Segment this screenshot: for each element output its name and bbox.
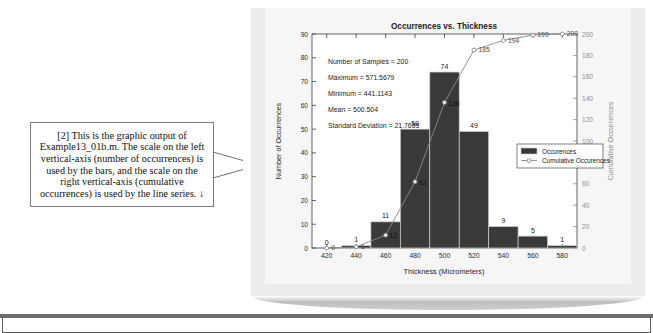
cumulative-value-label: 136: [449, 100, 460, 107]
cumulative-marker: [560, 32, 564, 36]
chart-legend[interactable]: OccurencesCumulative Occurences: [517, 144, 610, 168]
y-tick-label: 60: [301, 102, 309, 109]
cumulative-value-label: 0: [331, 244, 335, 251]
bar: [548, 246, 577, 248]
cumulative-value-label: 1: [361, 243, 365, 250]
cumulative-marker: [531, 33, 535, 37]
chart-title: Occurrences vs. Thickness: [391, 22, 497, 31]
x-tick-label: 480: [409, 252, 421, 259]
matlab-figure: Occurrences vs. Thickness 01020304050607…: [265, 8, 631, 284]
x-tick-label: 500: [439, 252, 451, 259]
y-tick-label: 30: [301, 173, 309, 180]
bar-value-label: 11: [382, 212, 389, 219]
y2-tick-label: 100: [582, 138, 593, 145]
cumulative-marker: [501, 39, 505, 43]
stat-line: Maximum = 571.5679: [328, 74, 395, 81]
y-tick-label: 70: [301, 78, 309, 85]
panel-drop-shadow: [251, 296, 645, 310]
stat-line: Mean = 500.504: [328, 106, 378, 113]
y2-tick-label: 140: [582, 95, 593, 102]
stat-line: Standard Deviation = 21.7655: [328, 122, 420, 129]
legend-label-cumulative: Cumulative Occurences: [542, 157, 610, 164]
legend-swatch-marker: [527, 159, 531, 163]
y-tick-label: 80: [301, 54, 309, 61]
y-tick-label: 10: [301, 221, 309, 228]
y2-tick-label: 160: [582, 73, 593, 80]
cumulative-value-label: 12: [390, 232, 398, 239]
x-tick-label: 580: [557, 252, 569, 259]
chart-panel: Occurrences vs. Thickness 01020304050607…: [243, 0, 653, 310]
cumulative-value-label: 62: [419, 179, 427, 186]
y2-tick-label: 20: [582, 223, 590, 230]
cumulative-value-label: 185: [478, 46, 490, 53]
cumulative-value-label: 199: [537, 31, 549, 38]
bar: [489, 227, 518, 248]
y2-tick-label: 120: [582, 116, 593, 123]
bottom-frame-box: [2, 318, 651, 333]
y-tick-label: 50: [301, 126, 309, 133]
y2-tick-label: 60: [582, 180, 590, 187]
bar: [459, 131, 488, 248]
x-tick-label: 540: [498, 252, 510, 259]
x-tick-label: 560: [527, 252, 539, 259]
bar-value-label: 49: [470, 122, 478, 129]
bar-value-label: 0: [325, 239, 329, 246]
x-tick-label: 520: [468, 252, 480, 259]
bar-value-label: 74: [441, 63, 449, 70]
bar: [518, 236, 547, 248]
stat-line: Minimum = 441.1143: [328, 90, 392, 97]
callout-box: [2] This is the graphic output of Exampl…: [30, 122, 214, 207]
bar: [430, 72, 459, 248]
x-tick-label: 460: [380, 252, 392, 259]
stat-line: Number of Samples = 200: [328, 58, 408, 66]
y-axis-right-label: Cumulative Occurrences: [606, 101, 615, 180]
bar-value-label: 1: [354, 236, 358, 243]
y2-tick-label: 40: [582, 202, 590, 209]
legend-swatch-bar: [521, 148, 537, 154]
cumulative-marker: [354, 245, 358, 249]
cumulative-marker: [472, 48, 476, 52]
y-axis-left-label: Number of Occurrences: [274, 102, 283, 179]
y-tick-label: 20: [301, 197, 309, 204]
y-tick-label: 0: [304, 245, 308, 252]
cumulative-marker: [413, 180, 417, 184]
cumulative-value-label: 200: [567, 30, 579, 37]
y-tick-label: 40: [301, 149, 309, 156]
x-tick-label: 420: [321, 252, 333, 259]
legend-label-occurrences: Occurences: [542, 148, 576, 155]
page-root: [2] This is the graphic output of Exampl…: [0, 0, 653, 333]
y2-tick-label: 200: [582, 31, 593, 38]
y-tick-label: 90: [301, 31, 309, 38]
bar-value-label: 5: [531, 227, 535, 234]
x-axis-label: Thickness (Micrometers): [404, 267, 485, 276]
histogram-plot: Occurrences vs. Thickness 01020304050607…: [265, 8, 631, 284]
y2-tick-label: 180: [582, 52, 593, 59]
bar-value-label: 9: [501, 217, 505, 224]
x-tick-label: 440: [350, 252, 362, 259]
cumulative-value-label: 194: [508, 37, 520, 44]
cumulative-marker: [384, 233, 388, 237]
y2-tick-label: 0: [582, 245, 586, 252]
bar: [400, 129, 429, 248]
cumulative-marker: [443, 101, 447, 105]
bar-value-label: 1: [560, 236, 564, 243]
callout-text: [2] This is the graphic output of Exampl…: [31, 128, 213, 202]
cumulative-marker: [325, 246, 329, 250]
